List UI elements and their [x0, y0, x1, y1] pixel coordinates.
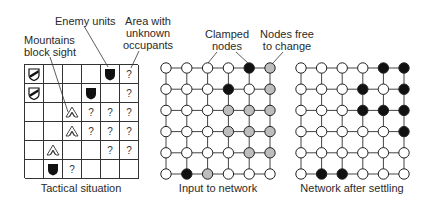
node-on	[337, 169, 347, 179]
node-off	[182, 148, 192, 158]
caption-input: Input to network	[179, 182, 257, 194]
leader-free	[273, 52, 283, 63]
node-off	[202, 84, 212, 94]
node-off	[316, 84, 326, 94]
node-free	[244, 105, 254, 115]
node-off	[182, 126, 192, 136]
node-off	[337, 148, 347, 158]
node-off	[223, 63, 233, 73]
node-off	[296, 84, 306, 94]
node-on	[399, 84, 409, 94]
leader-enemy-units	[84, 26, 108, 67]
node-off	[202, 126, 212, 136]
node-free	[223, 105, 233, 115]
network-figure	[0, 0, 430, 208]
node-off	[378, 169, 388, 179]
leader-area-unknown	[131, 51, 139, 68]
node-off	[202, 63, 212, 73]
caption-settled: Network after settling	[300, 182, 403, 194]
node-off	[265, 169, 275, 179]
node-off	[337, 63, 347, 73]
node-off	[244, 169, 254, 179]
node-on	[399, 63, 409, 73]
node-off	[316, 63, 326, 73]
node-off	[399, 169, 409, 179]
node-free	[244, 126, 254, 136]
node-off	[202, 148, 212, 158]
node-free	[265, 148, 275, 158]
node-off	[182, 105, 192, 115]
node-off	[182, 63, 192, 73]
node-off	[223, 169, 233, 179]
node-off	[202, 105, 212, 115]
node-free	[265, 84, 275, 94]
node-on	[399, 126, 409, 136]
node-off	[337, 84, 347, 94]
node-off	[358, 126, 368, 136]
node-off	[316, 105, 326, 115]
node-off	[161, 84, 171, 94]
settled-network	[296, 63, 409, 179]
node-on	[358, 105, 368, 115]
node-off	[316, 148, 326, 158]
node-off	[378, 126, 388, 136]
node-off	[358, 169, 368, 179]
leader-mountains	[50, 57, 68, 112]
node-off	[358, 63, 368, 73]
node-free	[244, 148, 254, 158]
node-free	[265, 105, 275, 115]
node-off	[161, 105, 171, 115]
node-free	[223, 126, 233, 136]
node-on	[378, 63, 388, 73]
node-off	[296, 126, 306, 136]
input-network	[161, 63, 275, 179]
node-off	[378, 84, 388, 94]
node-off	[296, 169, 306, 179]
caption-tactical: Tactical situation	[41, 182, 122, 194]
node-off	[399, 148, 409, 158]
node-on	[244, 63, 254, 73]
node-off	[296, 105, 306, 115]
node-on	[316, 169, 326, 179]
node-on	[378, 105, 388, 115]
node-free	[265, 126, 275, 136]
node-off	[337, 126, 347, 136]
node-off	[161, 63, 171, 73]
node-off	[296, 148, 306, 158]
node-on	[223, 84, 233, 94]
node-on	[358, 84, 368, 94]
node-off	[316, 126, 326, 136]
leader-clamped-1	[208, 52, 217, 63]
node-off	[161, 169, 171, 179]
node-on	[182, 169, 192, 179]
node-off	[223, 148, 233, 158]
node-off	[337, 105, 347, 115]
node-off	[358, 148, 368, 158]
node-off	[161, 126, 171, 136]
node-off	[244, 84, 254, 94]
node-off	[161, 148, 171, 158]
node-off	[378, 148, 388, 158]
leader-clamped-2	[236, 52, 248, 63]
node-on	[399, 105, 409, 115]
node-free	[202, 169, 212, 179]
node-off	[296, 63, 306, 73]
node-off	[182, 84, 192, 94]
node-free	[265, 63, 275, 73]
